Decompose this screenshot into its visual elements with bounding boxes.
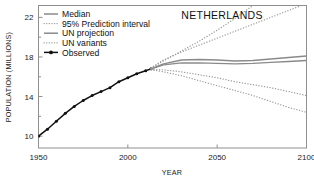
- x-tick-label: 2000: [119, 153, 137, 162]
- x-tick-label: 2050: [208, 153, 226, 162]
- legend-label: 95% Prediction interval: [62, 19, 150, 29]
- legend-label: UN projection: [62, 28, 114, 38]
- chart-title: NETHERLANDS: [181, 9, 262, 21]
- data-point: [73, 105, 76, 108]
- x-axis-label: YEAR: [162, 168, 182, 177]
- data-point: [64, 112, 67, 115]
- y-tick-label: 10: [25, 132, 34, 141]
- data-point: [46, 128, 49, 131]
- data-point: [126, 76, 129, 79]
- data-point: [108, 86, 111, 89]
- data-point: [100, 90, 103, 93]
- y-tick-label: 14: [25, 93, 34, 102]
- chart-container: 195020002050210010141822 NETHERLANDS YEA…: [0, 0, 314, 180]
- y-tick-label: 22: [25, 13, 34, 22]
- legend-marker-dot-icon: [49, 51, 53, 55]
- legend-label: UN variants: [62, 38, 107, 48]
- data-point: [144, 69, 147, 72]
- x-tick-label: 1950: [30, 153, 48, 162]
- data-point: [82, 99, 85, 102]
- legend-label: Observed: [62, 48, 99, 58]
- legend-label: Median: [62, 9, 90, 19]
- population-projection-chart: 195020002050210010141822 NETHERLANDS YEA…: [0, 0, 314, 180]
- data-point: [117, 80, 120, 83]
- data-point: [91, 94, 94, 97]
- y-axis-label: POPULATION (MILLIONS): [4, 32, 13, 122]
- x-tick-label: 2100: [298, 153, 314, 162]
- data-point: [55, 120, 58, 123]
- data-point: [135, 72, 138, 75]
- y-tick-label: 18: [25, 53, 34, 62]
